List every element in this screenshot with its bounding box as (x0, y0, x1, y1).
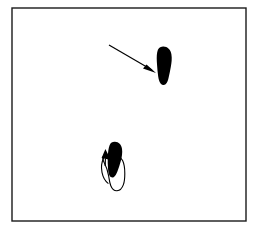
border-frame (12, 8, 246, 221)
figure-root: Footprint impression diagram (0, 0, 258, 232)
figure-canvas (0, 0, 258, 232)
